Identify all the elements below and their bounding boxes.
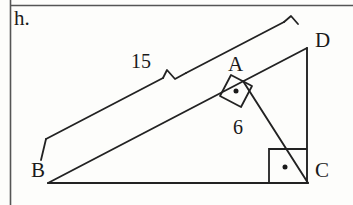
vertex-label-A: A xyxy=(228,54,243,75)
measurement-label-hypotenuse: 15 xyxy=(131,51,151,71)
vertex-label-C: C xyxy=(315,160,329,181)
geometry-figure: h. B C D A 15 6 xyxy=(0,0,353,205)
vertex-label-D: D xyxy=(315,30,330,51)
segment-AC-altitude xyxy=(243,81,308,183)
item-label: h. xyxy=(14,8,30,29)
right-angle-dot-C xyxy=(283,165,288,170)
measurement-label-altitude: 6 xyxy=(233,117,243,137)
right-angle-marker-C xyxy=(269,149,307,183)
right-angle-square-C xyxy=(269,149,307,183)
right-angle-dot-A xyxy=(234,89,239,94)
figure-canvas xyxy=(0,0,353,205)
vertex-label-B: B xyxy=(31,160,45,181)
dimension-line-15 xyxy=(41,16,298,160)
